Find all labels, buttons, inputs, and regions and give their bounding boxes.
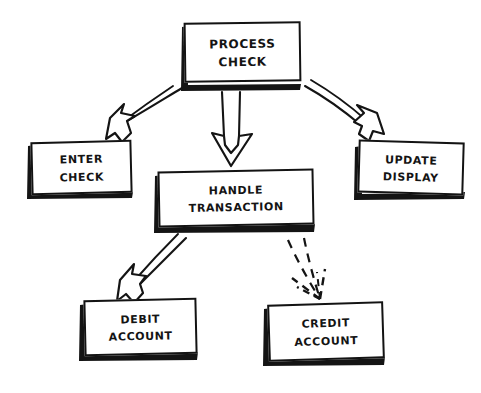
node-debit-account[interactable]: Debit Account xyxy=(83,298,197,357)
node-update-display-line2: Display xyxy=(383,167,439,185)
node-credit-account-line2: Account xyxy=(294,330,358,349)
node-process-check-line1: Process xyxy=(209,33,275,52)
node-process-check-line2: Check xyxy=(218,52,266,71)
node-update-display[interactable]: Update Display xyxy=(357,140,464,196)
node-enter-check[interactable]: Enter Check xyxy=(30,140,132,195)
node-debit-account-line2: Account xyxy=(109,326,173,345)
node-handle-transaction-line2: Transaction xyxy=(189,197,284,216)
node-handle-transaction[interactable]: Handle Transaction xyxy=(157,169,314,228)
node-enter-check-line2: Check xyxy=(59,167,104,185)
edge-process-to-update xyxy=(305,80,384,141)
edge-process-to-enter xyxy=(106,86,182,142)
node-credit-account-line1: Credit xyxy=(301,313,350,332)
diagram-canvas: Process Check Enter Check Handle Transac… xyxy=(0,0,481,393)
node-update-display-line1: Update xyxy=(385,150,438,168)
edge-handle-to-credit xyxy=(288,238,325,299)
edge-process-to-handle xyxy=(212,92,252,166)
node-credit-account[interactable]: Credit Account xyxy=(267,301,385,362)
edge-handle-to-debit xyxy=(117,234,186,303)
node-process-check[interactable]: Process Check xyxy=(184,21,302,83)
node-enter-check-line1: Enter xyxy=(59,150,103,168)
